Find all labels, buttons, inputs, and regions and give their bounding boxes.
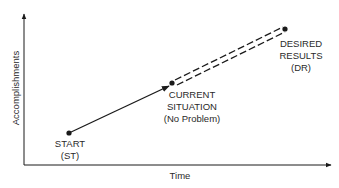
desired-label-line: DESIRED [274,38,328,50]
start-label: START (ST) [50,138,90,162]
y-axis-label: Accomplishments [10,51,21,125]
start-label-line: START [50,138,90,150]
current-label-line: (No Problem) [160,113,224,125]
start-point [66,130,71,135]
desired-label: DESIRED RESULTS (DR) [274,38,328,74]
desired-label-line: RESULTS [274,50,328,62]
current-point [169,80,174,85]
start-label-line: (ST) [50,150,90,162]
current-label: CURRENT SITUATION (No Problem) [160,89,224,125]
start-to-current-arrow [69,86,169,133]
current-to-desired-dashed [175,27,285,85]
current-label-line: CURRENT [160,89,224,101]
x-axis-label: Time [170,170,191,181]
desired-point [282,26,287,31]
desired-label-line: (DR) [274,62,328,74]
current-label-line: SITUATION [160,101,224,113]
